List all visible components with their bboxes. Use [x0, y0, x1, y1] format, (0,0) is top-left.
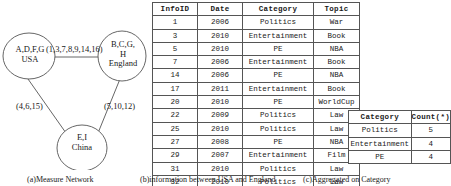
cell-date: 2010 [198, 29, 243, 42]
aggregated-table-container: Category Count(*) Politics 5 Entertainme… [348, 110, 451, 164]
node-usa-circle[interactable] [3, 33, 55, 79]
cell-date: 2011 [198, 82, 243, 95]
column-header-count: Count(*) [411, 111, 450, 124]
cell-category: PE [243, 96, 314, 109]
cell-infoid: 22 [153, 109, 198, 122]
cell-date: 2006 [198, 69, 243, 82]
information-table-container: InfoID Date Category Topic 1 2006 Politi… [152, 2, 360, 186]
cell-date: 2006 [198, 56, 243, 69]
cell-infoid: 29 [153, 149, 198, 162]
cell-topic: Book [314, 56, 360, 69]
cell-topic: Book [314, 82, 360, 95]
measure-network-figure: A,D,F,G USA B,C,G, H England E,I China (… [0, 0, 148, 186]
caption-aggregated-table: (c)Aggregated on Category [303, 175, 391, 184]
cell-category: PE [349, 150, 412, 163]
cell-category: Politics [243, 162, 314, 175]
caption-information-table: (b)information between USA and England [140, 175, 276, 184]
table-row[interactable]: Politics 5 [349, 124, 451, 137]
cell-topic: Book [314, 29, 360, 42]
table-row[interactable]: PE 4 [349, 150, 451, 163]
cell-date: 2010 [198, 162, 243, 175]
edge-usa-england-label: (1,3,7,8,9,14,16) [46, 44, 103, 54]
cell-infoid: 3 [153, 29, 198, 42]
cell-date: 2009 [198, 109, 243, 122]
column-header-category: Category [243, 3, 314, 16]
cell-topic: NBA [314, 69, 360, 82]
table-row[interactable]: 29 2007 Entertainment Film [153, 149, 360, 162]
caption-measure-network: (a)Measure Network [27, 175, 93, 184]
table-row[interactable]: 14 2006 PE NBA [153, 69, 360, 82]
cell-infoid: 20 [153, 96, 198, 109]
cell-category: PE [243, 42, 314, 55]
table-row[interactable]: 20 2010 PE WorldCup [153, 96, 360, 109]
cell-date: 2008 [198, 135, 243, 148]
table-row[interactable]: 1 2006 Politics War [153, 16, 360, 29]
cell-topic: War [314, 16, 360, 29]
cell-category: PE [243, 69, 314, 82]
edge-england-china-label: (5,10,12) [104, 101, 135, 111]
network-graph [0, 0, 148, 170]
cell-count: 4 [411, 150, 450, 163]
cell-date: 2010 [198, 96, 243, 109]
table-row[interactable]: 25 2010 Politics Law [153, 122, 360, 135]
cell-category: Entertainment [243, 149, 314, 162]
node-england-circle[interactable] [98, 31, 146, 81]
information-table: InfoID Date Category Topic 1 2006 Politi… [152, 2, 360, 186]
cell-topic: NBA [314, 42, 360, 55]
column-header-category: Category [349, 111, 412, 124]
cell-category: Politics [243, 109, 314, 122]
table-row[interactable]: 3 2010 Entertainment Book [153, 29, 360, 42]
column-header-infoid: InfoID [153, 3, 198, 16]
table-row[interactable]: 17 2011 Entertainment Book [153, 82, 360, 95]
cell-date: 2007 [198, 149, 243, 162]
table-header-row: Category Count(*) [349, 111, 451, 124]
node-china-circle[interactable] [57, 125, 107, 170]
cell-infoid: 14 [153, 69, 198, 82]
column-header-topic: Topic [314, 3, 360, 16]
table-row[interactable]: 7 2006 Entertainment Book [153, 56, 360, 69]
cell-date: 2010 [198, 42, 243, 55]
edge-usa-china-label: (4,6,15) [16, 101, 43, 111]
cell-category: Entertainment [243, 29, 314, 42]
cell-infoid: 5 [153, 42, 198, 55]
cell-infoid: 31 [153, 162, 198, 175]
cell-topic: WorldCup [314, 96, 360, 109]
cell-infoid: 1 [153, 16, 198, 29]
cell-category: Politics [243, 16, 314, 29]
cell-category: Entertainment [243, 82, 314, 95]
cell-infoid: 17 [153, 82, 198, 95]
table-row[interactable]: 5 2010 PE NBA [153, 42, 360, 55]
cell-count: 5 [411, 124, 450, 137]
cell-count: 4 [411, 137, 450, 150]
table-row[interactable]: 27 2008 PE NBA [153, 135, 360, 148]
column-header-date: Date [198, 3, 243, 16]
table-row[interactable]: 31 2010 Politics Law [153, 162, 360, 175]
cell-infoid: 25 [153, 122, 198, 135]
cell-category: Politics [349, 124, 412, 137]
cell-date: 2010 [198, 122, 243, 135]
aggregated-table: Category Count(*) Politics 5 Entertainme… [348, 110, 451, 164]
cell-date: 2006 [198, 16, 243, 29]
cell-infoid: 7 [153, 56, 198, 69]
cell-category: Entertainment [243, 56, 314, 69]
table-row[interactable]: Entertainment 4 [349, 137, 451, 150]
cell-category: PE [243, 135, 314, 148]
table-row[interactable]: 22 2009 Politics Law [153, 109, 360, 122]
table-header-row: InfoID Date Category Topic [153, 3, 360, 16]
cell-category: Entertainment [349, 137, 412, 150]
cell-category: Politics [243, 122, 314, 135]
cell-infoid: 27 [153, 135, 198, 148]
